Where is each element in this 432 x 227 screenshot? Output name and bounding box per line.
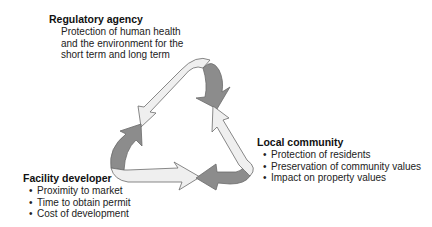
bullet-icon: • <box>263 161 271 173</box>
local-community-list: •Protection of residents •Preservation o… <box>257 149 421 184</box>
local-community-title: Local community <box>257 136 421 149</box>
regulatory-agency-description: Protection of human health and the envir… <box>49 26 183 61</box>
bullet-icon: • <box>263 172 271 184</box>
regulatory-agency-block: Regulatory agency Protection of human he… <box>49 13 183 61</box>
list-item: •Protection of residents <box>257 149 421 161</box>
list-item: •Preservation of community values <box>257 161 421 173</box>
light-arrow-top-to-left <box>138 58 210 127</box>
list-item: •Cost of development <box>23 208 131 220</box>
bullet-icon: • <box>29 197 37 209</box>
list-item-text: Cost of development <box>37 208 129 219</box>
dark-arrow-top-to-right <box>196 63 230 109</box>
list-item: •Time to obtain permit <box>23 197 131 209</box>
description-line: Protection of human health <box>61 26 183 38</box>
description-line: short term and long term <box>61 49 183 61</box>
facility-developer-title: Facility developer <box>23 172 131 185</box>
local-community-block: Local community •Protection of residents… <box>257 136 421 184</box>
list-item-text: Time to obtain permit <box>37 197 131 208</box>
list-item-text: Protection of residents <box>271 149 371 160</box>
description-line: and the environment for the <box>61 38 183 50</box>
facility-developer-list: •Proximity to market •Time to obtain per… <box>23 185 131 220</box>
bullet-icon: • <box>29 185 37 197</box>
light-arrow-right-to-top <box>212 106 253 176</box>
list-item: •Impact on property values <box>257 172 421 184</box>
facility-developer-block: Facility developer •Proximity to market … <box>23 172 131 220</box>
stakeholder-cycle-diagram: Regulatory agency Protection of human he… <box>0 0 432 227</box>
bullet-icon: • <box>29 208 37 220</box>
dark-arrow-left-to-top <box>111 124 142 170</box>
list-item-text: Proximity to market <box>37 185 123 196</box>
list-item-text: Impact on property values <box>271 172 386 183</box>
list-item-text: Preservation of community values <box>271 161 421 172</box>
bullet-icon: • <box>263 149 271 161</box>
list-item: •Proximity to market <box>23 185 131 197</box>
regulatory-agency-title: Regulatory agency <box>49 13 183 26</box>
